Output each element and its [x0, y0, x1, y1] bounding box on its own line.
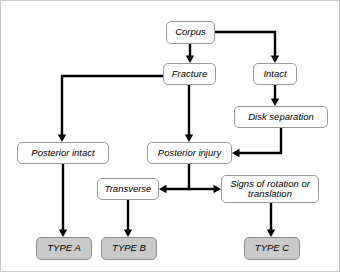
edge-fracture-to-posterior-injury [185, 85, 193, 142]
edge-transverse-to-type-b [124, 200, 132, 237]
edge-posterior-injury-to-signs [189, 185, 221, 193]
arrowhead [214, 185, 222, 193]
arrowhead [58, 135, 66, 143]
node-corpus[interactable]: Corpus [166, 21, 215, 44]
node-posterior-injury[interactable]: Posterior injury [147, 142, 232, 164]
flowchart-canvas: CorpusFractureIntactDisk separationPoste… [0, 0, 340, 272]
arrowhead [159, 185, 167, 193]
edge-corpus-to-intact [215, 32, 279, 63]
arrowhead [185, 135, 193, 143]
node-type-b[interactable]: TYPE B [101, 237, 157, 260]
node-fracture[interactable]: Fracture [163, 63, 216, 85]
arrowhead [267, 230, 275, 238]
edge-posterior-injury-to-split [159, 164, 189, 193]
arrowhead [271, 99, 279, 107]
arrowhead [59, 230, 67, 238]
node-intact[interactable]: Intact [253, 63, 297, 85]
node-type-a[interactable]: TYPE A [36, 237, 92, 260]
edge-posterior-intact-to-type-a [59, 164, 67, 237]
node-signs-rotation[interactable]: Signs of rotation or translation [221, 175, 319, 203]
edge-corpus-to-fracture [186, 44, 194, 63]
arrowhead [124, 230, 132, 238]
node-transverse[interactable]: Transverse [97, 178, 159, 200]
edge-fracture-to-posterior-intact [58, 76, 163, 142]
arrowhead [186, 56, 194, 64]
edge-disk-separation-to-posterior-injury [232, 128, 281, 157]
node-type-c[interactable]: TYPE C [244, 237, 300, 260]
arrowhead [232, 149, 240, 157]
arrowhead [271, 56, 279, 64]
edge-intact-to-disk-separation [271, 85, 279, 106]
node-disk-separation[interactable]: Disk separation [234, 106, 328, 128]
node-posterior-intact[interactable]: Posterior intact [17, 142, 109, 164]
edge-signs-to-type-c [267, 203, 275, 237]
